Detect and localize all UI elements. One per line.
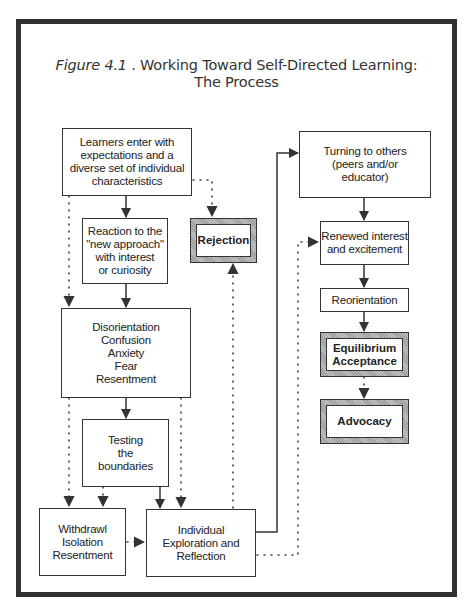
node-renewed: Renewed interest and excitement: [320, 221, 409, 265]
node-turning: Turning to others (peers and/or educator…: [299, 131, 431, 198]
node-equilibrium-label: Equilibrium Acceptance: [326, 338, 403, 371]
node-learners: Learners enter with expectations and a d…: [62, 128, 192, 196]
node-reorientation: Reorientation: [320, 288, 409, 312]
edge-individual-turning: [255, 153, 298, 532]
node-reaction: Reaction to the "new approach" with inte…: [82, 218, 168, 284]
node-disorientation: Disorientation Confusion Anxiety Fear Re…: [61, 308, 191, 398]
node-rejection-label: Rejection: [196, 224, 251, 257]
node-rejection: Rejection: [190, 218, 257, 263]
edge-individual-renewed: [257, 242, 318, 555]
node-withdrawl: Withdrawl Isolation Resentment: [39, 508, 126, 576]
edge-learners-rejection: [193, 180, 212, 216]
node-advocacy: Advocacy: [320, 399, 409, 444]
node-equilibrium: Equilibrium Acceptance: [320, 332, 409, 377]
node-individual: Individual Exploration and Reflection: [146, 509, 256, 577]
node-testing: Testing the boundaries: [82, 419, 169, 487]
node-advocacy-label: Advocacy: [326, 405, 403, 438]
